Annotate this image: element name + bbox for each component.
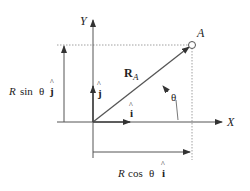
unit-j-label: j xyxy=(97,87,102,99)
point-a-marker xyxy=(189,42,196,49)
vector-diagram: Y X A R A θ ^ j ^ i R sin θ ^ j R cos θ … xyxy=(0,0,250,191)
vector-ra xyxy=(93,47,189,122)
r-sin-angle: θ xyxy=(39,85,44,97)
vector-ra-symbol: R xyxy=(124,66,133,80)
y-axis-label: Y xyxy=(80,14,88,28)
r-cos-func: cos xyxy=(128,167,143,179)
unit-i-label: i xyxy=(130,107,133,119)
r-cos-prefix: R xyxy=(117,167,125,179)
point-a-label: A xyxy=(196,26,205,40)
r-sin-prefix: R xyxy=(8,85,16,97)
angle-pointer-arrow xyxy=(163,86,168,92)
r-cos-unit: i xyxy=(162,167,165,179)
angle-label: θ xyxy=(171,91,176,103)
r-cos-angle: θ xyxy=(149,167,154,179)
x-axis-label: X xyxy=(226,115,235,129)
angle-pointer xyxy=(176,100,178,120)
r-sin-func: sin xyxy=(20,85,33,97)
vector-ra-subscript: A xyxy=(132,72,139,82)
r-sin-unit: j xyxy=(49,85,54,97)
